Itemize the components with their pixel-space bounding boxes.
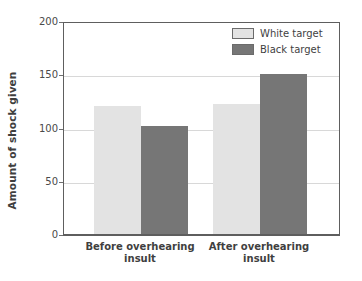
y-tick-label: 200 <box>28 17 58 27</box>
bar <box>213 104 260 234</box>
y-tick-label: 150 <box>28 70 58 80</box>
y-axis-title: Amount of shock given <box>0 0 24 281</box>
y-tick-mark <box>59 22 63 23</box>
y-tick-label: 0 <box>28 230 58 240</box>
y-tick-mark <box>59 129 63 130</box>
legend-item: White target <box>232 28 323 39</box>
x-axis-line <box>63 234 340 236</box>
x-category-label-line: After overhearing <box>189 241 329 253</box>
y-tick-mark <box>59 75 63 76</box>
legend-swatch-icon <box>232 28 254 39</box>
y-tick-label: 100 <box>28 124 58 134</box>
y-tick-mark <box>59 182 63 183</box>
bar <box>94 106 141 234</box>
y-tick-mark <box>59 235 63 236</box>
chart-legend: White targetBlack target <box>232 28 323 55</box>
bar <box>141 126 188 234</box>
y-axis-tick-labels: 050100150200 <box>26 0 58 281</box>
legend-item: Black target <box>232 44 323 55</box>
bar <box>260 74 307 234</box>
y-tick-label: 50 <box>28 177 58 187</box>
x-category-label: After overhearinginsult <box>189 241 329 265</box>
legend-swatch-icon <box>232 44 254 55</box>
legend-label: Black target <box>260 44 321 55</box>
x-category-label-line: insult <box>189 253 329 265</box>
bar-chart: Amount of shock given 050100150200 Befor… <box>0 0 362 281</box>
legend-label: White target <box>260 28 323 39</box>
